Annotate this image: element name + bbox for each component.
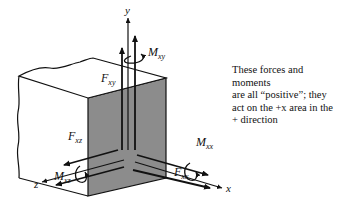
mxz-curl-icon [76,166,87,182]
note-line: act on the +x area in the [232,102,338,115]
fxx-label: Fxx [173,165,189,181]
note-line: + direction [232,114,338,127]
y-axis-label: y [124,4,130,16]
positive-x-face [88,78,166,196]
note-line: are all “positive”; they [232,89,338,102]
mxy-curl-icon [124,54,143,63]
x-axis-label: x [225,182,231,194]
z-axis-label: z [33,178,39,190]
cut-edge [17,76,19,178]
mxy-label: Mxy [147,45,166,61]
fxz-label: Fxz [67,129,83,145]
sign-convention-note: These forces and moments are all “positi… [232,64,338,127]
mxx-label: Mxx [195,135,214,151]
note-line: These forces and moments [232,64,338,89]
mxz-label: Mxz [53,169,72,185]
